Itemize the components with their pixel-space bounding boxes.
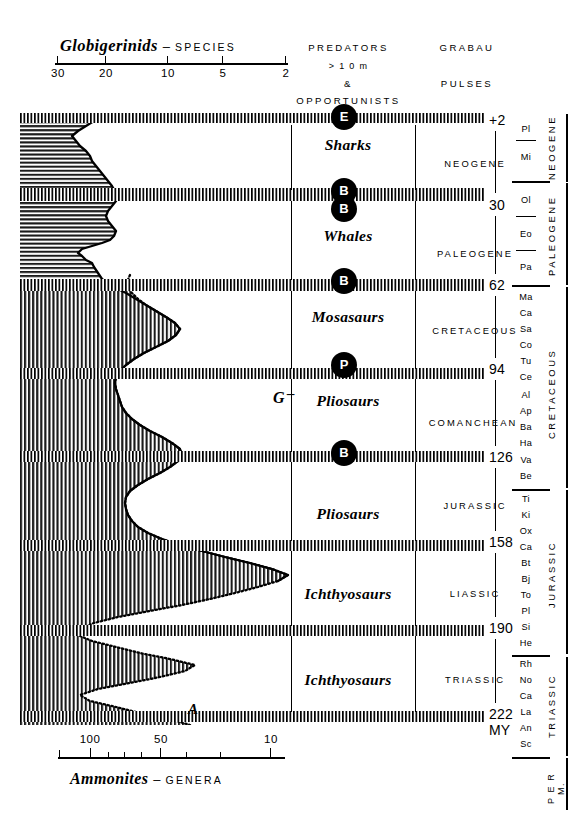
period-divider [512, 757, 550, 759]
predators-header-line2: > 1 0 m [291, 61, 406, 71]
chart-figure: Globigerinids–SPECIES 30 20 10 5 2 PREDA… [0, 0, 584, 817]
stage-label: Sc [513, 739, 539, 749]
top-axis-tick-label: 20 [91, 67, 121, 79]
column-divider-predators [291, 379, 292, 452]
event-band [20, 368, 485, 379]
bottom-axis-tick [220, 752, 221, 759]
top-axis-tick [222, 56, 223, 64]
ammonites-curve-label: A [188, 701, 198, 718]
period-bracket [566, 758, 568, 810]
column-divider-grabau [415, 379, 416, 452]
stage-label: Ca [513, 308, 539, 318]
bottom-axis-tick [160, 748, 161, 759]
stage-label: Ba [513, 422, 539, 432]
predator-name: Whales [288, 227, 408, 245]
predator-name: Pliosaurs [288, 392, 408, 410]
column-divider-predators [291, 462, 292, 541]
stage-label: He [513, 638, 539, 648]
event-marker-extinction: B [331, 268, 357, 294]
age-label: 222 [489, 706, 513, 722]
predator-name: Ichthyosaurs [283, 585, 413, 603]
stage-label: Eo [513, 229, 539, 239]
top-axis-tick [57, 56, 58, 64]
ammonites-fill [20, 284, 288, 725]
stage-label: Ca [513, 542, 539, 552]
top-axis-tick [105, 56, 106, 64]
column-divider-predators [291, 291, 292, 369]
period-divider [512, 489, 550, 491]
period-bracket [566, 287, 568, 488]
stage-label: Ca [513, 691, 539, 701]
age-label: +2 [489, 112, 505, 128]
period-divider [512, 655, 550, 657]
stage-label: Rh [513, 659, 539, 669]
stage-label: No [513, 675, 539, 685]
event-band [20, 625, 485, 636]
stage-label: Bj [513, 574, 539, 584]
top-axis-dash: – [158, 39, 175, 54]
column-divider-grabau [415, 201, 416, 280]
stage-label: Mi [513, 152, 539, 162]
period-label: TRIASSIC [546, 663, 560, 749]
period-label: CRETACEOUS [546, 340, 560, 448]
period-bracket [566, 114, 568, 182]
period-label: JURASSIC [546, 528, 560, 620]
stage-label: Ha [513, 438, 539, 448]
age-label: 126 [489, 449, 513, 465]
event-band [20, 451, 485, 462]
stage-label: Bt [513, 558, 539, 568]
period-divider [512, 285, 550, 287]
event-band [20, 711, 485, 722]
stage-label: La [513, 707, 539, 717]
bottom-axis-tick [124, 752, 125, 759]
age-scale-rule [495, 380, 496, 446]
period-divider [512, 181, 550, 183]
stage-label: Al [513, 390, 539, 400]
stage-label: Pl [513, 124, 539, 134]
stage-label: To [513, 590, 539, 600]
top-axis-series-name: Globigerinids [60, 36, 158, 55]
grabau-header-line1: GRABAU [412, 42, 522, 53]
event-marker-extinction: B [331, 440, 357, 466]
age-label: 62 [489, 277, 505, 293]
event-marker-extinction: B [331, 196, 357, 222]
stage-label: Ce [513, 372, 539, 382]
stage-label: Pa [513, 262, 539, 272]
globigerinids-curve-label: G [273, 389, 285, 407]
stage-label: Ap [513, 406, 539, 416]
stage-label: Tu [513, 356, 539, 366]
stage-label: Ma [513, 292, 539, 302]
bottom-axis-title: Ammonites–GENERA [70, 770, 310, 792]
bottom-axis-tick [108, 752, 109, 759]
stage-label: Be [513, 471, 539, 481]
bottom-axis-tick [141, 752, 142, 759]
stage-divider [516, 250, 536, 251]
bottom-axis-tick-label: 10 [256, 733, 286, 745]
event-marker-extinction: P [331, 352, 357, 378]
event-band [20, 540, 485, 551]
period-bracket [566, 183, 568, 285]
stage-label: Ti [513, 494, 539, 504]
bottom-axis-unit: GENERA [166, 774, 224, 786]
top-axis-tick-label: 10 [153, 67, 183, 79]
bottom-axis-series-name: Ammonites [70, 770, 148, 787]
period-bracket [566, 490, 568, 654]
bottom-axis-tick [270, 748, 271, 759]
top-axis-tick [285, 56, 286, 64]
bottom-axis-dash: – [148, 772, 165, 787]
grabau-header-line2: PULSES [412, 78, 522, 89]
age-scale-rule [495, 216, 496, 274]
stage-label: Pl [513, 606, 539, 616]
stage-label: Ki [513, 510, 539, 520]
age-scale-rule [495, 131, 496, 193]
stage-label: Si [513, 622, 539, 632]
stage-label: Va [513, 455, 539, 465]
bottom-axis-tick [59, 750, 60, 759]
stage-label: Sa [513, 324, 539, 334]
age-label: 94 [489, 361, 505, 377]
stage-label: Ol [513, 195, 539, 205]
age-scale-rule [495, 468, 496, 531]
period-label: PALEOGENE [546, 190, 560, 282]
age-scale-rule [495, 553, 496, 617]
bottom-axis-tick [186, 752, 187, 759]
